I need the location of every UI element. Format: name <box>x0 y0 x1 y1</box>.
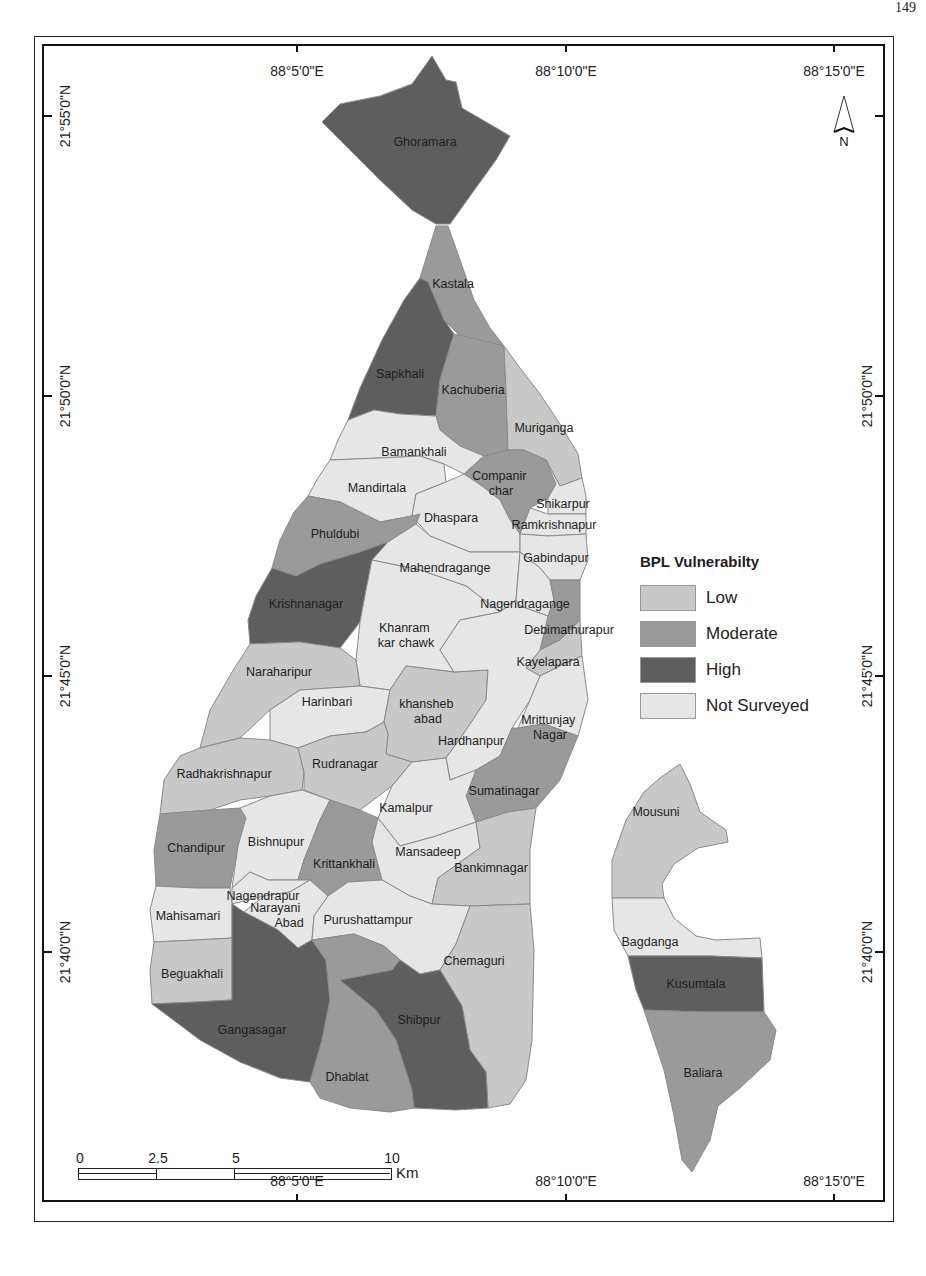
label-khanram-line1: Khanram <box>379 621 430 635</box>
label-mahisamari: Mahisamari <box>156 909 221 923</box>
label-shibpur: Shibpur <box>397 1013 440 1027</box>
scale-bar-graphic <box>78 1168 392 1180</box>
label-bishnupur: Bishnupur <box>248 835 304 849</box>
top-longitude-label: 88°10'0"E <box>535 63 597 79</box>
label-khansheb-line1: khansheb <box>399 697 453 711</box>
label-bagdanga: Bagdanga <box>621 935 678 949</box>
top-longitude-label: 88°5'0"E <box>270 63 324 79</box>
north-arrow-icon: N <box>830 92 860 148</box>
label-narayani-line1: Narayani <box>250 901 300 915</box>
scale-tick-label: 0 <box>76 1150 84 1166</box>
scale-segment <box>157 1169 235 1179</box>
legend-item-not-surveyed: Not Surveyed <box>640 688 809 724</box>
label-dhaspara: Dhaspara <box>424 511 478 525</box>
legend-label: High <box>706 660 741 680</box>
label-mahendragange: Mahendragange <box>399 561 490 575</box>
label-kachuberia: Kachuberia <box>441 383 504 397</box>
legend-title: BPL Vulnerabilty <box>640 553 809 570</box>
right-latitude-label: 21°40'0"N <box>859 921 875 983</box>
label-mousuni: Mousuni <box>632 805 679 819</box>
label-muriganga: Muriganga <box>514 421 573 435</box>
label-narayani-line2: Abad <box>274 916 303 930</box>
legend-swatch-moderate <box>640 621 696 647</box>
label-phuldubi: Phuldubi <box>311 527 360 541</box>
legend-item-high: High <box>640 652 809 688</box>
legend-label: Not Surveyed <box>706 696 809 716</box>
label-mansadeep: Mansadeep <box>395 845 460 859</box>
scale-tick-label: 5 <box>232 1150 240 1166</box>
north-label: N <box>839 134 848 148</box>
legend-label: Low <box>706 588 737 608</box>
bottom-longitude-label: 88°15'0"E <box>803 1173 865 1189</box>
left-latitude-label: 21°40'0"N <box>57 921 73 983</box>
region-mousuni[interactable] <box>612 764 728 898</box>
label-bankimnagar: Bankimnagar <box>454 861 528 875</box>
label-shikarpur: Shikarpur <box>536 497 590 511</box>
label-sapkhali: Sapkhali <box>376 367 424 381</box>
legend-swatch-low <box>640 585 696 611</box>
label-harinbari: Harinbari <box>302 695 353 709</box>
legend-item-moderate: Moderate <box>640 616 809 652</box>
legend-item-low: Low <box>640 580 809 616</box>
bottom-longitude-label: 88°10'0"E <box>535 1173 597 1189</box>
label-khanram-kar-chawk: Khanram kar chawk <box>378 621 435 650</box>
left-latitude-label: 21°55'0"N <box>57 85 73 147</box>
label-radhakrishnapur: Radhakrishnapur <box>176 767 271 781</box>
label-purushattampur: Purushattampur <box>324 913 413 927</box>
scale-segment <box>235 1169 390 1179</box>
legend-swatch-not-surveyed <box>640 693 696 719</box>
label-kusumtala: Kusumtala <box>666 977 725 991</box>
legend-label: Moderate <box>706 624 778 644</box>
region-baliara[interactable] <box>644 1010 776 1172</box>
right-latitude-label: 21°45'0"N <box>859 645 875 707</box>
label-sumatinagar: Sumatinagar <box>469 784 540 798</box>
label-rudranagar: Rudranagar <box>312 757 378 771</box>
label-kamalpur: Kamalpur <box>379 801 433 815</box>
label-chandipur: Chandipur <box>167 841 225 855</box>
legend: BPL Vulnerabilty Low Moderate High Not S… <box>640 553 809 724</box>
label-ramkrishnapur: Ramkrishnapur <box>512 518 597 532</box>
label-bamankhali: Bamankhali <box>381 445 446 459</box>
legend-swatch-high <box>640 657 696 683</box>
scale-tick-label: 2.5 <box>148 1150 167 1166</box>
label-krittankhali: Krittankhali <box>313 857 375 871</box>
label-baliara: Baliara <box>684 1066 723 1080</box>
right-latitude-label: 21°50'0"N <box>859 365 875 427</box>
region-bagdanga[interactable] <box>612 898 762 958</box>
label-mrittunjay-line2: Nagar <box>533 728 567 742</box>
label-gangasagar: Gangasagar <box>218 1023 287 1037</box>
label-beguakhali: Beguakhali <box>161 967 223 981</box>
left-latitude-label: 21°50'0"N <box>57 365 73 427</box>
scale-labels: 0 2.5 5 10 <box>78 1150 392 1168</box>
label-ghoramara: Ghoramara <box>393 135 456 149</box>
label-khansheb-line2: abad <box>414 712 442 726</box>
scale-segment <box>79 1169 157 1179</box>
label-gabindapur: Gabindapur <box>523 551 588 565</box>
label-naraharipur: Naraharipur <box>246 665 312 679</box>
label-dhablat: Dhablat <box>325 1070 369 1084</box>
top-longitude-label: 88°15'0"E <box>803 63 865 79</box>
label-khanram-line2: kar chawk <box>378 636 435 650</box>
label-nagendragange: Nagendragange <box>480 597 570 611</box>
label-kastala: Kastala <box>432 277 474 291</box>
left-latitude-label: 21°45'0"N <box>57 645 73 707</box>
scale-bar: 0 2.5 5 10 Km <box>78 1150 392 1180</box>
label-hardhanpur: Hardhanpur <box>438 734 504 748</box>
label-kayelapara: Kayelapara <box>516 655 579 669</box>
label-debimathurapur: Debimathurapur <box>524 623 614 637</box>
label-companir-line2: char <box>489 484 513 498</box>
label-mrittunjay-line1: Mrittunjay <box>521 713 576 727</box>
north-arrow: N <box>830 92 860 148</box>
scale-unit: Km <box>396 1164 419 1181</box>
label-krishnanagar: Krishnanagar <box>269 597 343 611</box>
label-mandirtala: Mandirtala <box>348 481 406 495</box>
label-chemaguri: Chemaguri <box>443 954 504 968</box>
label-companir-line1: Companir <box>472 469 526 483</box>
